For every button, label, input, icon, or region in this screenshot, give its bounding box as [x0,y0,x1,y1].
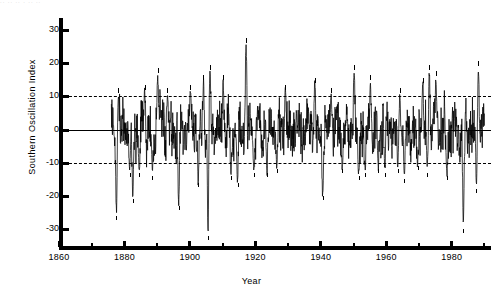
y-tick-label: 10 [23,91,59,100]
y-tick-label-wrap: -20 [0,191,59,200]
y-tick-label-wrap: 10 [0,91,59,100]
event-leader-line [427,173,428,177]
x-tick-label: 1920 [235,252,275,262]
event-leader-line [133,199,134,203]
x-tick-label: 1860 [39,252,79,262]
event-leader-line [116,216,117,220]
plot-area [59,18,491,246]
event-leader-line [385,173,386,177]
event-leader-line [152,176,153,180]
event-leader-line [400,88,401,93]
event-leader-line [130,173,131,177]
event-leader-line [254,173,255,177]
y-tick-label-wrap: 30 [0,25,59,34]
event-leader-line [139,173,140,177]
event-leader-line [398,169,399,173]
x-tick-label: 1940 [301,252,341,262]
event-leader-line [231,176,232,180]
event-leader-line [145,85,146,90]
event-leader-line [476,189,477,193]
soi-series-path [59,18,491,246]
event-leader-line [447,176,448,180]
event-leader-line [203,75,204,80]
soi-chart-figure: ·· ·· ·· · ·· ·· Southern Oscillation In… [0,0,503,293]
event-leader-line [370,75,371,80]
x-tick-label: 1900 [170,252,210,262]
event-leader-line [418,166,419,170]
event-leader-line [342,169,343,173]
event-leader-line [246,38,247,43]
y-tick-label-wrap: 20 [0,58,59,67]
y-tick-label-wrap: -30 [0,224,59,233]
event-leader-line [277,169,278,173]
scan-artifact-text: ·· ·· ·· · ·· ·· [0,0,190,4]
series-line [111,45,484,231]
event-leader-line [404,179,405,183]
event-leader-line [365,173,366,177]
event-leader-line [118,88,119,93]
y-tick-label-wrap: 0 [0,125,59,134]
y-tick-label: -20 [23,191,59,200]
y-tick-label: 0 [23,125,59,134]
event-leader-line [285,85,286,90]
x-tick-label: 1980 [432,252,472,262]
event-leader-line [315,78,316,83]
y-tick-label: -30 [23,224,59,233]
x-tick-label: 1880 [104,252,144,262]
event-leader-line [267,173,268,177]
y-tick-label: 30 [23,25,59,34]
event-leader-line [158,68,159,73]
x-tick-label: 1960 [366,252,406,262]
event-leader-line [423,78,424,83]
event-leader-line [210,65,211,70]
event-leader-line [429,65,430,70]
y-tick-label: -10 [23,158,59,167]
event-leader-line [463,229,464,233]
event-leader-line [354,65,355,70]
event-leader-line [190,85,191,90]
event-leader-line [478,61,479,66]
event-leader-line [436,71,437,76]
event-leader-line [378,169,379,173]
event-leader-line [359,176,360,180]
event-leader-line [208,236,209,240]
event-leader-line [331,88,332,93]
y-tick-label-wrap: -10 [0,158,59,167]
x-axis-label: Year [0,276,503,286]
event-leader-line [223,75,224,80]
event-leader-line [167,88,168,93]
event-leader-line [238,183,239,187]
event-leader-line [198,183,199,187]
event-leader-line [179,206,180,210]
event-leader-line [323,196,324,200]
y-tick-label: 20 [23,58,59,67]
